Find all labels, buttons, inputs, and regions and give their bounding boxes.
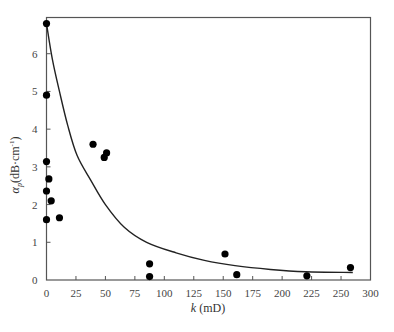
data-point [43,92,50,99]
data-point [303,272,310,279]
data-point [89,141,96,148]
y-tick-label: 1 [32,236,38,248]
x-tick-label: 25 [70,287,82,299]
y-tick-label: 3 [32,161,38,173]
data-point [221,250,228,257]
data-point [233,271,240,278]
data-point [43,216,50,223]
x-tick-label: 200 [274,287,291,299]
data-point [48,197,55,204]
axes-frame [47,18,371,280]
y-tick-label: 4 [32,123,38,135]
y-axis-ticks: 0123456 [32,48,51,286]
x-tick-label: 250 [333,287,350,299]
x-tick-label: 150 [215,287,232,299]
data-point [45,175,52,182]
x-tick-label: 125 [186,287,203,299]
x-axis-label: k (mD) [191,301,225,315]
data-point [43,158,50,165]
chart: 0255075100125150175200225250300 0123456 … [0,0,394,332]
data-point [146,260,153,267]
x-tick-label: 0 [44,287,50,299]
y-tick-label: 0 [32,274,38,286]
y-tick-label: 2 [32,199,38,211]
fit-curve [47,24,353,273]
data-point [347,264,354,271]
x-tick-label: 175 [244,287,261,299]
data-point [43,187,50,194]
x-tick-label: 100 [156,287,173,299]
data-point [43,20,50,27]
y-axis-label: αp(dB·cm-1) [8,137,24,194]
data-point [56,214,63,221]
x-tick-label: 50 [100,287,112,299]
data-point [103,149,110,156]
x-tick-label: 75 [129,287,141,299]
fit-line [47,24,353,273]
x-tick-label: 225 [303,287,320,299]
y-tick-label: 5 [32,85,38,97]
x-tick-label: 300 [362,287,379,299]
data-point [146,273,153,280]
data-points [43,20,354,280]
y-tick-label: 6 [32,48,38,60]
plot-frame [47,18,371,280]
